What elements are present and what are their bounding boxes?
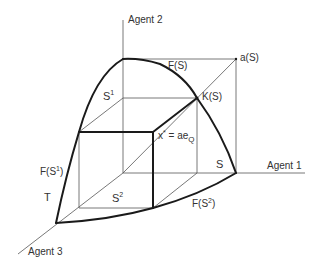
agent3-axis <box>18 173 123 254</box>
FS2-sup: 2 <box>208 197 212 204</box>
FS1-post: ) <box>60 166 63 177</box>
FS1-pre: F(S <box>40 166 56 177</box>
xstar-sup: * <box>163 129 166 136</box>
xstar-mid: = ae <box>166 130 189 141</box>
agent2-axis-label: Agent 2 <box>128 15 162 25</box>
point-KS <box>196 97 199 100</box>
agent1-axis-label: Agent 1 <box>267 161 301 171</box>
FS-label: F(S) <box>168 61 187 71</box>
FS1-sup: 1 <box>56 165 60 172</box>
aS-label: a(S) <box>240 53 259 63</box>
S1-label: S1 <box>103 91 114 102</box>
FS2-post: ) <box>212 198 215 209</box>
depth-line-top <box>79 98 123 132</box>
FS1-label: F(S1) <box>40 167 63 177</box>
S2-sup: 2 <box>119 191 123 198</box>
FS2-label: F(S2) <box>192 199 215 209</box>
xstar-label: x* = aeQ <box>158 131 195 141</box>
agent3-axis-label: Agent 3 <box>28 247 62 257</box>
T-label: T <box>44 192 51 203</box>
box-to-KS-edge <box>153 98 197 132</box>
FS2-pre: F(S <box>192 198 208 209</box>
xstar-sub: Q <box>188 135 194 144</box>
depth-line-bottom <box>153 173 197 208</box>
point-aS <box>235 58 237 60</box>
S2-label: S2 <box>112 193 123 204</box>
KS-label: K(S) <box>202 92 222 102</box>
S1-sup: 1 <box>110 89 114 96</box>
S-label: S <box>216 159 223 170</box>
